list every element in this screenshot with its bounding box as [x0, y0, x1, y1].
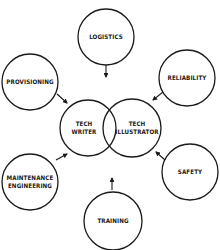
node-logistics: LOGISTICS — [78, 9, 134, 65]
arrow-from-maintenance-engineering — [56, 154, 67, 160]
maintenance-engineering-label: ENGINEERING — [8, 182, 52, 189]
node-tech-illustrator: TECHILLUSTRATOR — [103, 99, 161, 157]
maintenance-engineering-label: MAINTENANCE — [7, 174, 54, 181]
node-provisioning: PROVISIONING — [2, 54, 58, 110]
reliability-label: RELIABILITY — [168, 74, 208, 81]
tech-illustrator-label: TECH — [129, 120, 146, 127]
tech-writer-relationship-diagram: TECHWRITERTECHILLUSTRATOR LOGISTICSRELIA… — [0, 0, 220, 250]
node-reliability: RELIABILITY — [159, 50, 215, 106]
node-tech-writer: TECHWRITER — [60, 100, 116, 156]
node-training: TRAINING — [84, 192, 142, 250]
tech-illustrator-label: ILLUSTRATOR — [115, 128, 159, 135]
provisioning-label: PROVISIONING — [6, 78, 54, 85]
node-safety: SAFETY — [162, 144, 218, 200]
surrounding-nodes: LOGISTICSRELIABILITYSAFETYTRAININGMAINTE… — [2, 9, 218, 250]
center-circles: TECHWRITERTECHILLUSTRATOR — [60, 99, 161, 157]
training-label: TRAINING — [97, 217, 129, 224]
arrow-from-provisioning — [57, 94, 67, 103]
arrow-from-reliability — [153, 92, 163, 100]
arrow-from-safety — [156, 152, 165, 160]
tech-writer-label: TECH — [76, 120, 93, 127]
tech-writer-label: WRITER — [72, 128, 98, 135]
logistics-label: LOGISTICS — [89, 33, 123, 40]
node-maintenance-engineering: MAINTENANCEENGINEERING — [2, 154, 58, 210]
safety-label: SAFETY — [178, 168, 203, 175]
